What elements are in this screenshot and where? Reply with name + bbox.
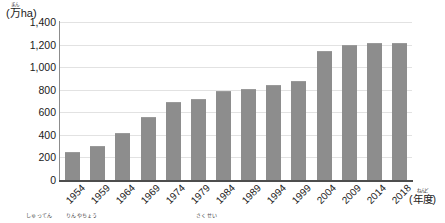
- x-axis-tick-label: 2009: [340, 183, 363, 206]
- bar: [141, 117, 156, 180]
- y-axis-tick-label: 600: [2, 107, 56, 118]
- y-axis-tick-label: 1,200: [2, 39, 56, 50]
- bar: [367, 43, 382, 180]
- x-axis-tick-label: 1969: [139, 183, 162, 206]
- x-axis-tick-label: 1989: [240, 183, 263, 206]
- x-axis-title-ruby: ねんど: [413, 188, 433, 193]
- y-axis-tick-label: 800: [2, 84, 56, 95]
- x-axis-tick-label: 1954: [64, 183, 87, 206]
- bar: [191, 99, 206, 180]
- y-axis-unit-ruby: まん: [10, 2, 21, 7]
- x-axis-tick-label: 1984: [215, 183, 238, 206]
- x-axis-title-kanji: 年度ねんど: [413, 193, 433, 205]
- x-axis-tick-label: 1999: [290, 183, 313, 206]
- footnote-ruby: りんやちょう: [66, 211, 98, 218]
- bar: [216, 91, 231, 180]
- bar: [65, 152, 80, 180]
- bar: [90, 146, 105, 180]
- y-axis-tick-labels: 02004006008001,0001,2001,400: [0, 22, 56, 180]
- bar-chart: (万まんha) 02004006008001,0001,2001,400 195…: [0, 0, 445, 223]
- y-axis-tick-label: 400: [2, 130, 56, 141]
- plot-area: [60, 22, 412, 180]
- footnote-ruby-row: しゅってんりんやちょうさくせい: [0, 207, 445, 223]
- x-axis-tick-label: 2004: [315, 183, 338, 206]
- bar: [241, 89, 256, 180]
- y-axis-tick-label: 0: [2, 175, 56, 186]
- x-axis-tick-label: 1964: [114, 183, 137, 206]
- bar: [115, 133, 130, 180]
- y-axis-tick-label: 200: [2, 152, 56, 163]
- x-axis-tick-label: 1994: [265, 183, 288, 206]
- bar-series: [60, 22, 412, 180]
- x-axis-tick-label: 1959: [89, 183, 112, 206]
- bar: [291, 81, 306, 180]
- y-axis-tick-label: 1,000: [2, 62, 56, 73]
- bar: [317, 51, 332, 180]
- bar: [392, 43, 407, 180]
- x-axis-title: (年度ねんど): [409, 188, 436, 205]
- bar: [166, 102, 181, 180]
- bar: [342, 45, 357, 180]
- x-axis-tick-label: 1979: [190, 183, 213, 206]
- x-axis-tick-label: 1974: [164, 183, 187, 206]
- y-axis-tick-label: 1,400: [2, 17, 56, 28]
- x-axis-tick-label: 2014: [366, 183, 389, 206]
- footnote-ruby: さくせい: [196, 211, 217, 218]
- footnote-ruby: しゅってん: [26, 211, 53, 218]
- bar: [266, 85, 281, 180]
